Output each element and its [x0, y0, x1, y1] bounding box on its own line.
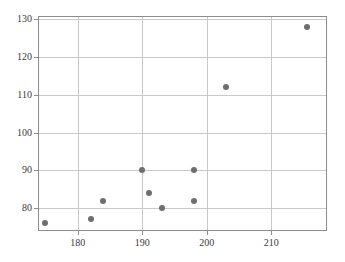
x-axis-tick-label: 210	[264, 238, 279, 248]
y-axis-tick-label: 80	[22, 203, 32, 213]
data-point	[139, 167, 145, 173]
gridline-horizontal	[39, 208, 326, 209]
y-axis-tick-mark	[34, 95, 39, 96]
plot-area: 8090100110120130180190200210	[38, 16, 327, 231]
gridline-horizontal	[39, 19, 326, 20]
data-point	[223, 84, 229, 90]
y-axis-tick-mark	[34, 133, 39, 134]
y-axis-tick-mark	[34, 57, 39, 58]
gridline-horizontal	[39, 133, 326, 134]
y-axis-tick-label: 100	[17, 128, 32, 138]
y-axis-tick-mark	[34, 208, 39, 209]
gridline-horizontal	[39, 57, 326, 58]
x-axis-tick-mark	[271, 230, 272, 235]
x-axis-tick-label: 200	[199, 238, 214, 248]
data-point	[191, 198, 197, 204]
data-point	[88, 216, 94, 222]
data-point	[100, 198, 106, 204]
x-axis-tick-mark	[207, 230, 208, 235]
y-axis-tick-mark	[34, 19, 39, 20]
data-point	[159, 205, 165, 211]
y-axis-tick-label: 130	[17, 14, 32, 24]
data-point	[191, 167, 197, 173]
gridline-horizontal	[39, 170, 326, 171]
gridline-vertical	[142, 17, 143, 230]
gridline-vertical	[207, 17, 208, 230]
x-axis-tick-label: 190	[135, 238, 150, 248]
gridline-horizontal	[39, 95, 326, 96]
data-point	[42, 220, 48, 226]
y-axis-tick-mark	[34, 170, 39, 171]
scatter-chart: 8090100110120130180190200210	[0, 0, 345, 262]
gridline-vertical	[78, 17, 79, 230]
x-axis-tick-label: 180	[70, 238, 85, 248]
y-axis-tick-label: 110	[17, 90, 32, 100]
data-point	[304, 24, 310, 30]
data-point	[146, 190, 152, 196]
x-axis-tick-mark	[78, 230, 79, 235]
gridline-vertical	[271, 17, 272, 230]
y-axis-tick-label: 120	[17, 52, 32, 62]
x-axis-tick-mark	[142, 230, 143, 235]
y-axis-tick-label: 90	[22, 165, 32, 175]
